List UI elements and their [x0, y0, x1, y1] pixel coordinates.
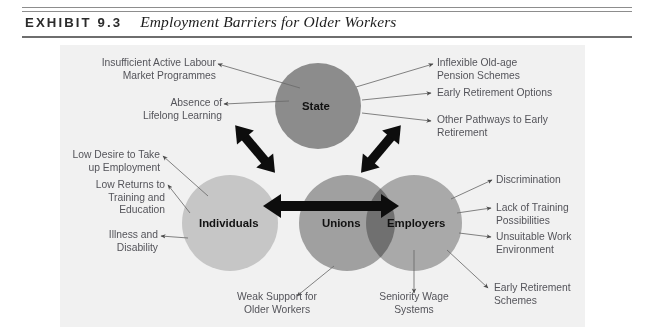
exhibit-figure: EXHIBIT 9.3 Employment Barriers for Olde…	[0, 0, 654, 335]
barrier-label-employers-3: Early Retirement Schemes	[494, 282, 598, 307]
barrier-label-employers-2: Unsuitable Work Environment	[496, 231, 608, 256]
node-label-state: State	[302, 100, 330, 112]
barrier-label-individuals-2: Illness and Disability	[62, 229, 158, 254]
barrier-label-employers-1: Lack of Training Possibilities	[496, 202, 606, 227]
node-label-unions: Unions	[322, 217, 361, 229]
barrier-label-state-right-2: Other Pathways to Early Retirement	[437, 114, 577, 139]
barrier-label-state-left-0: Insufficient Active Labour Market Progra…	[74, 57, 216, 82]
node-label-individuals: Individuals	[199, 217, 259, 229]
barrier-label-unions-1: Seniority Wage Systems	[361, 291, 467, 316]
barrier-label-employers-0: Discrimination	[496, 174, 606, 187]
barrier-label-individuals-0: Low Desire to Take up Employment	[62, 149, 160, 174]
barrier-label-individuals-1: Low Returns to Training and Education	[62, 179, 165, 217]
barrier-label-state-right-0: Inflexible Old-age Pension Schemes	[437, 57, 577, 82]
thick-arrow-group	[227, 118, 410, 218]
barrier-label-unions-0: Weak Support for Older Workers	[219, 291, 335, 316]
node-label-employers: Employers	[387, 217, 445, 229]
barrier-label-state-left-1: Absence of Lifelong Learning	[104, 97, 222, 122]
barrier-label-state-right-1: Early Retirement Options	[437, 87, 582, 100]
